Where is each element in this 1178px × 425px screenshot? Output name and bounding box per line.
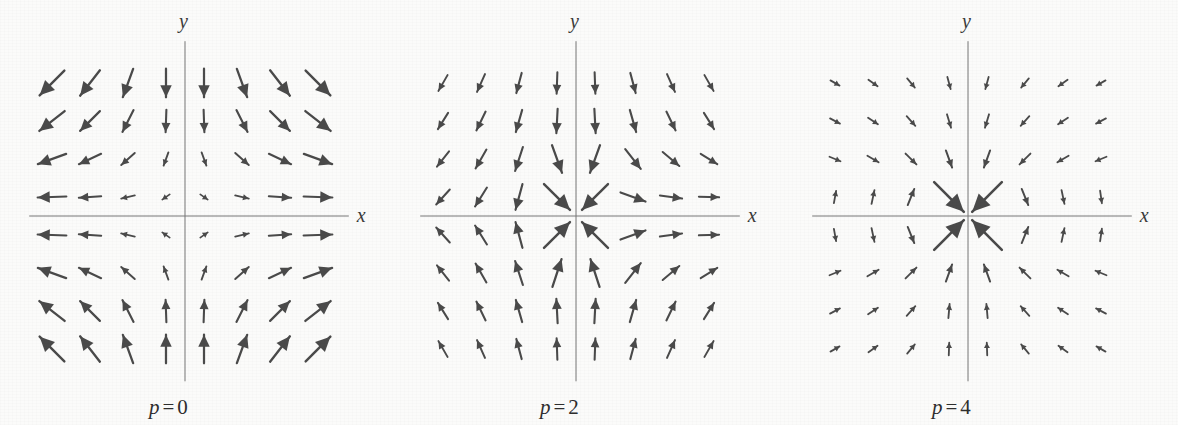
field-arrow (304, 267, 332, 279)
arrow-head (160, 85, 171, 97)
panel-p0-plot (0, 0, 393, 425)
field-arrow (515, 73, 523, 93)
field-arrow (79, 230, 101, 239)
arrow-head (316, 301, 331, 314)
panel-p0-caption-symbol: p (149, 395, 160, 419)
field-arrow (704, 75, 713, 91)
field-arrow (236, 110, 247, 132)
field-arrow (946, 343, 952, 356)
field-arrow (1021, 78, 1029, 87)
field-arrow (552, 259, 563, 287)
field-arrow (1021, 306, 1030, 316)
field-arrow (160, 335, 171, 364)
field-arrow (304, 154, 332, 166)
field-arrow (830, 80, 839, 85)
field-arrow (305, 301, 330, 321)
field-arrow (269, 268, 291, 278)
arrow-head (710, 231, 719, 239)
field-arrow (476, 302, 485, 321)
field-arrow (162, 232, 169, 237)
field-arrow (200, 232, 207, 237)
field-arrow (270, 70, 290, 95)
arrow-head (590, 299, 600, 310)
field-arrow (1020, 154, 1031, 165)
field-arrow (160, 69, 171, 98)
field-arrow (161, 300, 170, 322)
panel-p0-caption-equals: = (163, 395, 175, 419)
field-arrow (38, 267, 66, 279)
arrow-head (277, 81, 290, 96)
field-arrow (305, 111, 330, 131)
field-arrow (1095, 270, 1106, 276)
field-arrow (907, 116, 916, 126)
field-arrow (868, 118, 878, 125)
arrow-head (552, 299, 562, 310)
field-arrow (906, 268, 917, 279)
field-arrow (629, 339, 637, 359)
panel-p2-caption-equals: = (554, 395, 566, 419)
field-arrow (589, 145, 600, 173)
field-arrow (475, 188, 487, 207)
field-arrow (235, 232, 249, 238)
panel-p2-caption-value: 2 (568, 395, 579, 419)
arrow-head (514, 261, 524, 273)
field-arrow (79, 193, 101, 202)
field-arrow (477, 340, 485, 358)
arrow-head (80, 81, 93, 96)
panel-p2-plot (391, 0, 784, 425)
field-arrow (621, 192, 646, 202)
field-arrow (934, 220, 964, 250)
field-arrow (436, 227, 450, 242)
arrow-head (200, 123, 209, 133)
field-arrow (625, 263, 641, 283)
field-arrow (867, 270, 878, 276)
arrow-head (633, 229, 645, 239)
field-arrow (870, 190, 876, 204)
arrow-head (38, 229, 50, 240)
arrow-head (946, 264, 953, 272)
field-arrow (122, 300, 133, 322)
arrow-head (318, 154, 332, 165)
field-arrow (1058, 118, 1068, 125)
field-arrow (79, 154, 101, 164)
field-arrow (701, 154, 718, 164)
field-arrow (830, 346, 839, 351)
arrow-head (277, 336, 290, 351)
field-arrow (590, 109, 600, 133)
arrow-head (122, 335, 133, 349)
field-arrow (515, 339, 523, 359)
panel-p0-caption: p=0 (149, 395, 188, 420)
field-arrow (304, 229, 333, 240)
field-arrow (38, 154, 66, 166)
field-arrow (582, 184, 608, 210)
panel-p0-x-axis-label: x (357, 205, 366, 225)
field-arrow (829, 270, 840, 276)
field-arrow (237, 335, 249, 363)
field-arrow (667, 74, 675, 92)
field-arrow (122, 69, 134, 97)
arrow-head (198, 335, 209, 347)
arrow-head (984, 343, 990, 348)
field-arrow (552, 299, 562, 323)
panel-p4-caption: p=4 (932, 395, 971, 420)
field-arrow (39, 111, 64, 131)
field-arrow (984, 304, 990, 318)
arrow-head (316, 118, 331, 131)
field-arrow (436, 189, 450, 204)
field-arrow (629, 300, 638, 322)
field-arrow (660, 193, 682, 202)
field-arrow (663, 152, 680, 166)
arrow-head (552, 159, 563, 173)
field-arrow (1058, 308, 1068, 315)
field-arrow (868, 346, 877, 353)
arrow-head (1060, 228, 1066, 234)
field-arrow (544, 222, 570, 248)
field-arrow (544, 184, 570, 210)
field-arrow (704, 113, 714, 129)
field-arrow (202, 152, 208, 165)
arrow-head (281, 193, 291, 202)
field-arrow (972, 182, 1002, 212)
arrow-head (237, 335, 248, 349)
arrow-head (946, 159, 953, 167)
field-arrow (161, 110, 170, 132)
